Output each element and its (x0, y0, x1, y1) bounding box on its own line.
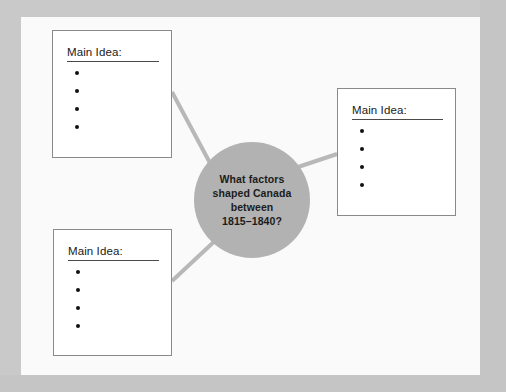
bullet-point[interactable] (75, 107, 79, 111)
idea-box-right[interactable]: Main Idea: (337, 88, 456, 216)
idea-heading-label: Main Idea: (67, 45, 159, 59)
connector-top-left-to-center (172, 92, 210, 163)
idea-box-top-left[interactable]: Main Idea: (52, 30, 172, 158)
connector-center-to-right (295, 154, 337, 168)
bullet-point[interactable] (360, 183, 364, 187)
connector-bottom-left-to-center (172, 238, 218, 281)
bullet-list-right (360, 129, 364, 201)
idea-heading-top-left: Main Idea: (67, 45, 159, 62)
bullet-point[interactable] (76, 270, 80, 274)
central-question-circle[interactable]: What factors shaped Canada between 1815–… (194, 142, 310, 258)
idea-heading-rule (352, 119, 443, 120)
idea-heading-rule (68, 260, 159, 261)
bullet-list-bottom-left (76, 270, 80, 342)
bullet-point[interactable] (75, 89, 79, 93)
bullet-list-top-left (75, 71, 79, 143)
idea-heading-bottom-left: Main Idea: (68, 244, 159, 261)
bullet-point[interactable] (75, 125, 79, 129)
idea-heading-right: Main Idea: (352, 103, 443, 120)
bullet-point[interactable] (76, 288, 80, 292)
idea-heading-label: Main Idea: (68, 244, 159, 258)
idea-heading-label: Main Idea: (352, 103, 443, 117)
idea-box-bottom-left[interactable]: Main Idea: (53, 229, 172, 356)
bullet-point[interactable] (76, 306, 80, 310)
bullet-point[interactable] (360, 147, 364, 151)
bullet-point[interactable] (360, 165, 364, 169)
bullet-point[interactable] (360, 129, 364, 133)
idea-heading-rule (67, 61, 159, 62)
bullet-point[interactable] (76, 324, 80, 328)
worksheet-canvas: Main Idea: Main Idea: Main Idea: (0, 0, 506, 392)
central-question-text: What factors shaped Canada between 1815–… (207, 172, 298, 228)
bullet-point[interactable] (75, 71, 79, 75)
